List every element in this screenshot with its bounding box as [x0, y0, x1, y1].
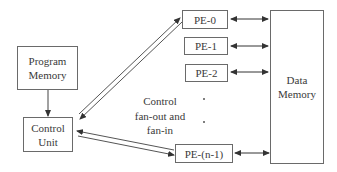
control-unit-block: Control Unit	[23, 117, 73, 152]
pe2-label: PE-2	[196, 66, 218, 80]
ellipsis-dot-2	[203, 121, 205, 123]
data-memory-block: Data Memory	[270, 10, 324, 164]
pe2-block: PE-2	[185, 64, 228, 82]
pe0-block: PE-0	[182, 10, 228, 29]
ellipsis-dot-1	[203, 98, 205, 100]
fan-annotation-line-3: fan-in	[120, 123, 200, 138]
pe1-label: PE-1	[195, 39, 217, 53]
control-unit-label-2: Unit	[38, 135, 58, 149]
data-memory-label-2: Memory	[278, 87, 316, 101]
fan-annotation-line-1: Control	[120, 94, 200, 109]
data-memory-label-1: Data	[287, 73, 308, 87]
program-memory-label-2: Memory	[29, 68, 67, 82]
program-memory-block: Program Memory	[17, 46, 78, 90]
pen1-label: PE-(n-1)	[185, 147, 224, 161]
fan-annotation-line-2: fan-out and	[120, 109, 200, 124]
control-unit-label-1: Control	[31, 121, 65, 135]
fan-annotation: Control fan-out and fan-in	[120, 94, 200, 138]
fanout-line-pen1	[78, 136, 174, 155]
program-memory-label-1: Program	[29, 54, 67, 68]
pen1-block: PE-(n-1)	[175, 144, 233, 163]
pe1-block: PE-1	[184, 37, 228, 55]
pe0-label: PE-0	[194, 13, 216, 27]
